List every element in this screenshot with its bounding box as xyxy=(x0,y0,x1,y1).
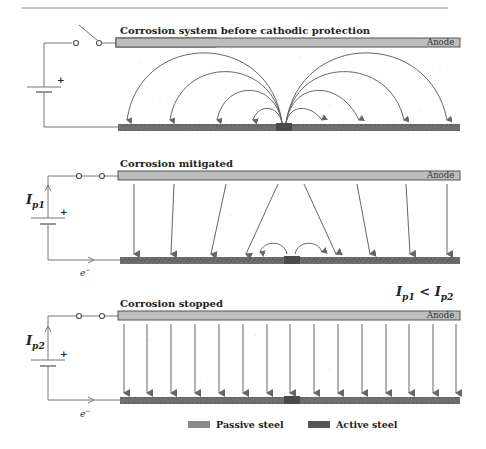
legend-active-steel: Active steel xyxy=(308,419,397,430)
panel3-anode-label: Anode xyxy=(427,310,454,320)
active-steel-swatch xyxy=(308,421,330,428)
panel2-current-label: Ip1 xyxy=(26,192,45,210)
panel2-title: Corrosion mitigated xyxy=(120,158,233,169)
panel-stopped xyxy=(31,311,460,404)
diagram-graphics xyxy=(0,0,486,449)
panel1-anode-label: Anode xyxy=(427,37,454,47)
panel3-current-label: Ip2 xyxy=(26,333,45,351)
panel2-electron-label: e− xyxy=(80,266,90,278)
panel-mitigated xyxy=(31,171,460,264)
panel2-anode-label: Anode xyxy=(427,170,454,180)
legend-label: Active steel xyxy=(336,419,397,430)
cathodic-protection-diagram: Corrosion system before cathodic protect… xyxy=(0,0,486,449)
panel3-title: Corrosion stopped xyxy=(120,298,223,309)
current-inequality: Ip1 < Ip2 xyxy=(396,284,453,302)
legend-label: Passive steel xyxy=(216,419,284,430)
panel3-electron-label: e− xyxy=(80,407,90,419)
panel1-battery-plus: + xyxy=(57,75,65,85)
panel2-battery-plus: + xyxy=(60,207,68,217)
legend-passive-steel: Passive steel xyxy=(188,419,284,430)
panel3-battery-plus: + xyxy=(60,349,68,359)
passive-steel-swatch xyxy=(188,421,210,428)
panel-before-protection xyxy=(27,25,460,131)
panel1-title: Corrosion system before cathodic protect… xyxy=(120,25,370,36)
